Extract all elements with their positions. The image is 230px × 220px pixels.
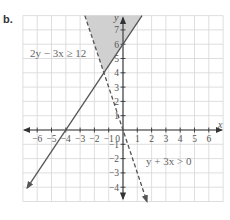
svg-text:7: 7: [114, 25, 119, 35]
svg-text:−4: −4: [109, 183, 119, 193]
svg-text:6: 6: [114, 40, 119, 50]
svg-text:4: 4: [178, 134, 183, 144]
svg-text:−2: −2: [89, 134, 99, 144]
svg-text:3: 3: [114, 83, 119, 93]
svg-text:−3: −3: [109, 168, 119, 178]
svg-text:−5: −5: [46, 134, 56, 144]
inequality-label-2: y + 3x > 0: [146, 155, 192, 167]
svg-text:−3: −3: [75, 134, 85, 144]
svg-text:0: 0: [115, 134, 120, 144]
svg-text:−6: −6: [32, 134, 42, 144]
y-axis-label: y: [113, 12, 119, 23]
svg-text:5: 5: [192, 134, 197, 144]
inequality-graph: −6−5−4−3−2−1123456−4−3−2−112345670 2y − …: [0, 0, 230, 220]
svg-text:2: 2: [149, 134, 154, 144]
x-axis-label: x: [217, 119, 223, 130]
boundary-lines: [27, 16, 147, 202]
svg-text:−2: −2: [109, 154, 119, 164]
svg-text:4: 4: [114, 68, 119, 78]
svg-text:1: 1: [135, 134, 140, 144]
inequality-label-1: 2y − 3x ≥ 12: [30, 47, 86, 59]
svg-text:6: 6: [206, 134, 211, 144]
svg-text:3: 3: [164, 134, 169, 144]
